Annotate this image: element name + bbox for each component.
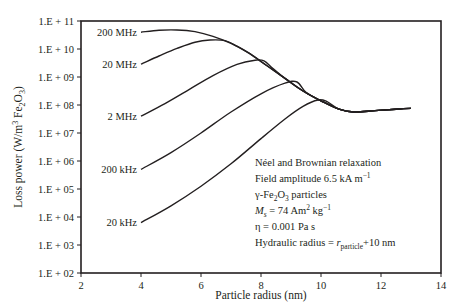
y-axis-ticks: 1.E + 021.E + 031.E + 041.E + 051.E + 06… — [38, 16, 81, 279]
annotation-line-5: η = 0.001 Pa s — [255, 221, 315, 232]
x-tick-label: 6 — [198, 280, 203, 291]
y-tick-label: 1.E + 03 — [38, 240, 74, 251]
series-label: 200 MHz — [97, 27, 137, 38]
x-tick-label: 10 — [316, 280, 327, 291]
series-label: 20 kHz — [106, 217, 137, 228]
y-tick-label: 1.E + 10 — [38, 44, 74, 55]
annotation-line-3: γ-Fe2O3 particles — [254, 189, 327, 203]
loss-power-chart: 1.E + 021.E + 031.E + 041.E + 051.E + 06… — [0, 0, 461, 302]
y-tick-label: 1.E + 06 — [38, 156, 74, 167]
y-tick-label: 1.E + 08 — [38, 100, 74, 111]
y-tick-label: 1.E + 07 — [38, 128, 74, 139]
x-tick-label: 4 — [138, 280, 144, 291]
annotation-line-2: Field amplitude 6.5 kA m−1 — [255, 171, 371, 184]
x-axis-label: Particle radius (nm) — [215, 289, 307, 302]
series-line-2-mhz — [141, 60, 411, 116]
y-tick-label: 1.E + 09 — [38, 72, 74, 83]
annotation-line-1: Néel and Brownian relaxation — [255, 157, 382, 168]
series-label: 200 kHz — [101, 164, 137, 175]
y-tick-label: 1.E + 05 — [38, 184, 74, 195]
y-tick-label: 1.E + 11 — [38, 16, 74, 27]
annotation-line-6: Hydraulic radius = rparticle+10 nm — [255, 237, 396, 251]
series-label: 2 MHz — [108, 111, 138, 122]
annotation-line-4: Ms = 74 Am2 kg−1 — [254, 203, 331, 219]
series-labels: 200 MHz20 MHz2 MHz200 kHz20 kHz — [97, 27, 137, 228]
series-line-20-mhz — [141, 40, 411, 112]
annotation-box: Néel and Brownian relaxation Field ampli… — [254, 157, 396, 251]
y-axis-label: Loss power (W/m3 Fe2O3) — [11, 86, 27, 208]
x-tick-label: 14 — [436, 280, 447, 291]
y-tick-label: 1.E + 04 — [38, 212, 75, 223]
series-label: 20 MHz — [102, 59, 137, 70]
x-tick-label: 2 — [78, 280, 83, 291]
y-tick-label: 1.E + 02 — [38, 268, 74, 279]
x-tick-label: 12 — [376, 280, 387, 291]
